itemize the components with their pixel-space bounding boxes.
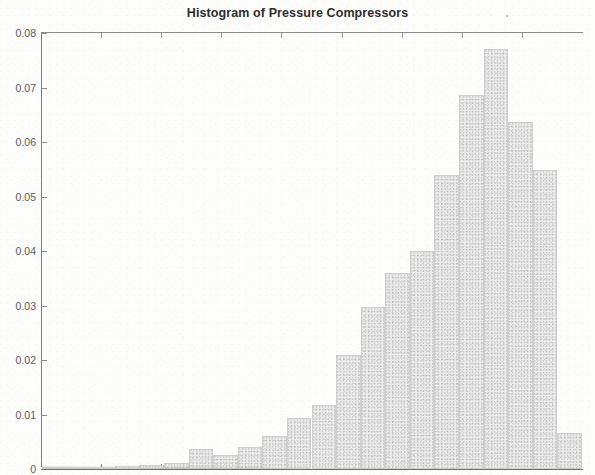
histogram-figure: Histogram of Pressure Compressors 00.010… bbox=[0, 0, 595, 475]
histogram-bar bbox=[434, 175, 459, 469]
y-axis-tick-label: 0.02 bbox=[2, 354, 36, 366]
histogram-bar bbox=[557, 433, 582, 470]
histogram-bar bbox=[361, 307, 386, 469]
plot-area bbox=[41, 33, 582, 469]
histogram-bar bbox=[508, 122, 533, 469]
histogram-bar bbox=[312, 405, 337, 469]
x-axis-line bbox=[41, 469, 583, 470]
y-axis-tick-label: 0.05 bbox=[2, 191, 36, 203]
histogram-bar bbox=[410, 251, 435, 469]
chart-title: Histogram of Pressure Compressors bbox=[0, 6, 595, 20]
histogram-bar bbox=[262, 436, 287, 469]
y-axis-tick-label: 0.03 bbox=[2, 300, 36, 312]
histogram-bar bbox=[385, 273, 410, 469]
y-axis-tick-label: 0 bbox=[2, 463, 36, 475]
histogram-bar bbox=[484, 49, 509, 469]
y-axis-tick-label: 0.04 bbox=[2, 245, 36, 257]
y-axis-tick-label: 0.08 bbox=[2, 27, 36, 39]
y-axis-tick-label: 0.06 bbox=[2, 136, 36, 148]
y-axis-tick-label: 0.01 bbox=[2, 409, 36, 421]
scan-speck bbox=[506, 15, 508, 17]
histogram-bar bbox=[336, 355, 361, 469]
y-axis-tick-label: 0.07 bbox=[2, 82, 36, 94]
scan-baseline-smudge bbox=[42, 466, 272, 469]
histogram-bar bbox=[533, 170, 558, 469]
histogram-bar bbox=[459, 95, 484, 469]
histogram-bar bbox=[287, 418, 312, 469]
